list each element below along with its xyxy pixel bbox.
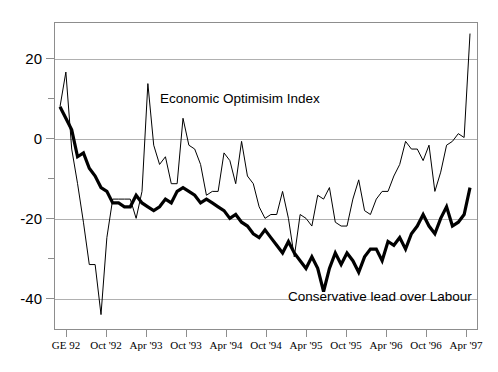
annotation-economic-optimism: Economic Optimisim Index bbox=[160, 91, 320, 106]
y-tick-minor-10 bbox=[48, 98, 54, 99]
annotation-conservative-lead: Conservative lead over Labour bbox=[288, 289, 472, 304]
x-tick-label-1: Oct '92 bbox=[90, 339, 122, 352]
x-tick-6 bbox=[306, 330, 307, 337]
y-tick-label-neg40: -40 bbox=[20, 291, 42, 306]
x-tick-4 bbox=[226, 330, 227, 337]
series-line-economic-optimism bbox=[60, 34, 470, 315]
x-tick-label-2: Apr '93 bbox=[130, 339, 163, 352]
x-tick-label-6: Apr '95 bbox=[290, 339, 323, 352]
x-tick-label-0: GE 92 bbox=[52, 339, 80, 352]
y-axis: 20 0 -20 -40 bbox=[0, 0, 46, 372]
chart-container: 20 0 -20 -40 GE 92Oct '92Apr '93Oct '93A… bbox=[0, 0, 498, 372]
x-tick-7 bbox=[346, 330, 347, 337]
x-tick-10 bbox=[466, 330, 467, 337]
y-tick-minor-neg10 bbox=[48, 178, 54, 179]
y-tick-label-0: 0 bbox=[34, 131, 42, 146]
x-axis: GE 92Oct '92Apr '93Oct '93Apr '94Oct '94… bbox=[0, 339, 498, 359]
y-tick-major-neg40 bbox=[46, 298, 54, 299]
y-tick-major-neg20 bbox=[46, 218, 54, 219]
x-tick-label-8: Apr '96 bbox=[370, 339, 403, 352]
x-tick-label-5: Oct '94 bbox=[250, 339, 282, 352]
x-axis-ticks bbox=[0, 330, 498, 338]
y-tick-minor-neg30 bbox=[48, 258, 54, 259]
x-tick-label-9: Oct '96 bbox=[410, 339, 442, 352]
x-tick-2 bbox=[146, 330, 147, 337]
x-tick-1 bbox=[106, 330, 107, 337]
x-tick-label-3: Oct '93 bbox=[170, 339, 202, 352]
x-tick-5 bbox=[266, 330, 267, 337]
x-tick-3 bbox=[186, 330, 187, 337]
x-tick-0 bbox=[66, 330, 67, 337]
y-tick-label-20: 20 bbox=[25, 51, 42, 66]
x-tick-9 bbox=[426, 330, 427, 337]
y-tick-major-20 bbox=[46, 58, 54, 59]
x-tick-label-7: Oct '95 bbox=[330, 339, 362, 352]
x-tick-label-10: Apr '97 bbox=[450, 339, 483, 352]
x-tick-8 bbox=[386, 330, 387, 337]
series-layer bbox=[54, 22, 478, 330]
x-tick-label-4: Apr '94 bbox=[210, 339, 243, 352]
y-tick-major-0 bbox=[46, 138, 54, 139]
y-tick-label-neg20: -20 bbox=[20, 211, 42, 226]
